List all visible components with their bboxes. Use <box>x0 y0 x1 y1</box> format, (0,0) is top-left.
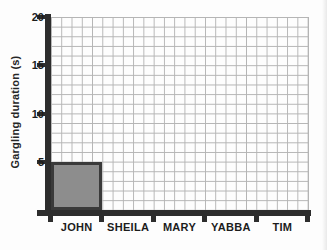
bar-chart: Gargling duration (s) 5101520JOHNSHEILAM… <box>0 0 327 250</box>
x-category-label-mary: MARY <box>163 221 196 233</box>
x-tick-4 <box>254 215 259 222</box>
x-tick-0 <box>48 215 53 222</box>
y-tick-label-15: 15 <box>32 60 44 71</box>
x-axis <box>37 210 311 216</box>
x-category-label-tim: TIM <box>272 221 292 233</box>
x-tick-1 <box>99 215 104 222</box>
y-tick-label-5: 5 <box>38 156 44 167</box>
x-tick-2 <box>151 215 156 222</box>
x-tick-3 <box>202 215 207 222</box>
x-category-label-yabba: YABBA <box>211 221 251 233</box>
bar-john <box>51 162 102 210</box>
x-tick-5 <box>305 215 310 222</box>
y-axis-title: Gargling duration (s) <box>9 56 21 169</box>
x-category-label-john: JOHN <box>61 221 93 233</box>
y-tick-label-20: 20 <box>32 12 44 23</box>
scan-edge-shadow <box>322 0 327 250</box>
y-tick-label-10: 10 <box>32 108 44 119</box>
x-category-label-sheila: SHEILA <box>107 221 149 233</box>
